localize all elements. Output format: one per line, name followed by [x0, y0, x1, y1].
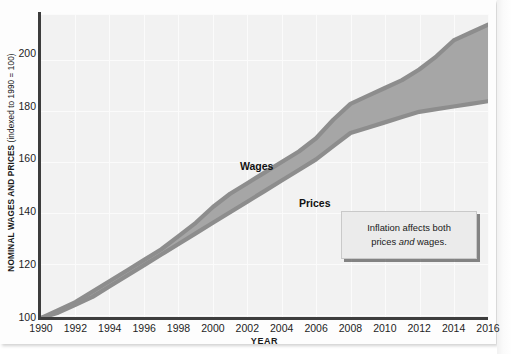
prices-label: Prices	[299, 197, 331, 209]
callout-line-1: Inflation affects both	[367, 222, 451, 233]
y-tick-label: 160	[4, 152, 36, 164]
callout-line-2-after: wages.	[414, 236, 446, 247]
gridline-vertical	[488, 14, 489, 318]
x-axis-title: YEAR	[41, 336, 488, 346]
y-tick-label: 140	[4, 205, 36, 217]
y-axis-line	[38, 12, 41, 320]
y-tick-labels: 100120140160180200	[0, 0, 36, 354]
callout-line-2-before: prices	[371, 236, 399, 247]
x-axis-line	[38, 317, 488, 320]
y-tick-label: 200	[4, 47, 36, 59]
y-tick-label: 180	[4, 100, 36, 112]
prices-line	[41, 101, 488, 318]
callout-box: Inflation affects both prices and wages.	[341, 211, 477, 259]
x-tick-label: 2016	[468, 322, 508, 334]
y-tick-label: 120	[4, 258, 36, 270]
page-edge-strip	[497, 0, 512, 354]
callout-line-2-emphasis: and	[399, 236, 415, 247]
wages-label: Wages	[240, 160, 273, 172]
chart-page: NOMINAL WAGES AND PRICES (indexed to 199…	[0, 0, 512, 354]
